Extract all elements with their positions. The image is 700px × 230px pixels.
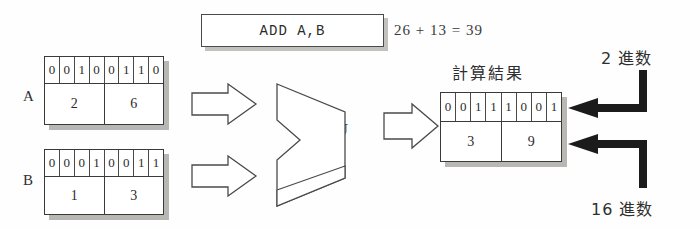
binary-callout-arrow-icon [568,70,647,118]
output-arrow-icon [384,104,438,148]
input-arrow-b-icon [192,156,256,196]
vector-overlay [0,0,700,230]
input-arrow-a-icon [192,84,256,124]
diagram-canvas: A 0 0 1 0 0 1 1 0 2 6 B 0 0 [0,0,700,230]
hexadecimal-callout-arrow-icon [568,134,647,188]
